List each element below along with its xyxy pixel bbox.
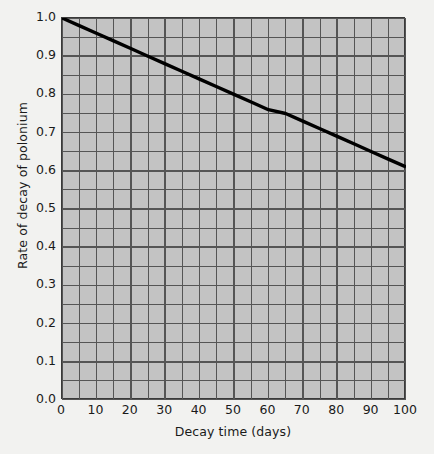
plot-area [61,17,405,399]
y-tick-label: 0.3 [8,278,56,291]
y-axis-title: Rate of decay of polonium [15,76,30,296]
chart-figure: Rate of decay of polonium 0.00.10.20.30.… [0,0,434,454]
y-tick-label: 0.2 [8,316,56,329]
y-tick-label: 0.1 [8,355,56,368]
data-series-line [62,18,406,167]
data-line-series [62,18,406,400]
y-tick-label: 0.7 [8,125,56,138]
y-tick-label: 0.9 [8,49,56,62]
y-tick-label: 0.5 [8,202,56,215]
y-tick-label: 0.8 [8,87,56,100]
x-axis-title: Decay time (days) [61,424,405,439]
y-tick-label: 1.0 [8,11,56,24]
y-tick-label: 0.4 [8,240,56,253]
x-tick-label: 100 [382,404,428,417]
y-tick-label: 0.6 [8,164,56,177]
